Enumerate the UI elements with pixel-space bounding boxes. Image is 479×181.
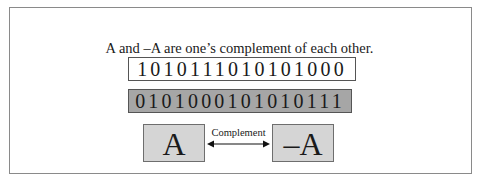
box-neg-a: –A <box>272 124 334 162</box>
complement-label: Complement <box>207 127 270 139</box>
binary-a-row: 1010111010101000 <box>128 57 356 81</box>
double-arrow-icon <box>207 139 270 149</box>
box-a: A <box>143 124 205 162</box>
figure-caption: A and –A are one’s complement of each ot… <box>0 40 479 56</box>
binary-neg-a-row: 0101000101010111 <box>128 89 352 113</box>
